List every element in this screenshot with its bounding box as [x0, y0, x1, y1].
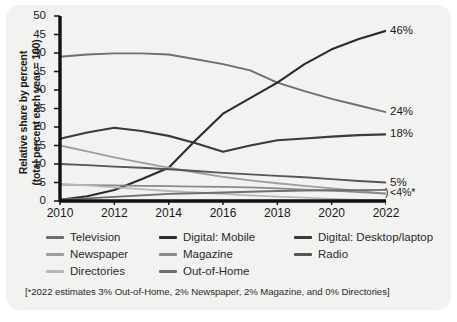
- legend-line-swatch-icon: [294, 236, 312, 239]
- legend-item-directories[interactable]: Directories: [46, 266, 159, 278]
- y-tick-label: 20: [33, 121, 46, 133]
- y-tick-label: 15: [33, 140, 46, 152]
- x-tick-label: 2012: [101, 207, 128, 219]
- legend-line-swatch-icon: [46, 270, 64, 273]
- grouping-brace-icon: ): [385, 187, 389, 198]
- legend-label: Radio: [318, 249, 348, 261]
- legend-line-swatch-icon: [46, 253, 64, 256]
- y-tick-label: 10: [33, 158, 46, 170]
- legend-item-newspaper[interactable]: Newspaper: [46, 249, 159, 261]
- legend-label: Out-of-Home: [183, 266, 249, 278]
- end-label-24: 24%: [390, 106, 413, 118]
- x-tick-label: 2010: [47, 207, 74, 219]
- x-tick-label: 2018: [264, 207, 291, 219]
- series-line-television: [60, 53, 386, 112]
- series-line-digital-desktop-laptop: [60, 128, 386, 152]
- y-tick-label: 45: [33, 29, 46, 41]
- plot-area: [48, 13, 386, 205]
- end-label-18: 18%: [390, 128, 413, 140]
- y-axis-tick-labels: 05101520253035404550: [14, 13, 46, 205]
- legend-row: DirectoriesOut-of-Home: [46, 263, 446, 280]
- legend-item-digital-desktop-laptop[interactable]: Digital: Desktop/laptop: [294, 232, 433, 244]
- end-label-46: 46%: [390, 25, 413, 37]
- legend-row: TelevisionDigital: MobileDigital: Deskto…: [46, 229, 446, 246]
- legend-label: Television: [70, 232, 121, 244]
- y-tick-label: 25: [33, 103, 46, 115]
- chart-card: Relative share by percent (total percent…: [6, 5, 451, 310]
- y-tick-label: 35: [33, 66, 46, 78]
- y-tick-label: 0: [40, 195, 46, 207]
- x-tick-label: 2020: [318, 207, 345, 219]
- legend-item-magazine[interactable]: Magazine: [159, 249, 294, 261]
- end-label-4: <4%*: [390, 187, 415, 198]
- legend-line-swatch-icon: [159, 270, 177, 273]
- chart-legend: TelevisionDigital: MobileDigital: Deskto…: [46, 229, 446, 280]
- x-tick-label: 2022: [373, 207, 400, 219]
- legend-label: Digital: Desktop/laptop: [318, 232, 433, 244]
- legend-item-out-of-home[interactable]: Out-of-Home: [159, 266, 294, 278]
- legend-line-swatch-icon: [159, 253, 177, 256]
- legend-item-radio[interactable]: Radio: [294, 249, 348, 261]
- legend-line-swatch-icon: [159, 236, 177, 239]
- series-end-labels: 46%24%18%5%<4%*): [388, 13, 451, 208]
- legend-line-swatch-icon: [46, 236, 64, 239]
- legend-label: Newspaper: [70, 249, 128, 261]
- chart-footnote: [*2022 estimates 3% Out-of-Home, 2% News…: [25, 286, 390, 297]
- series-line-digital-mobile: [60, 31, 386, 200]
- x-axis-tick-labels: 2010201220142016201820202022: [48, 205, 408, 225]
- legend-item-digital-mobile[interactable]: Digital: Mobile: [159, 232, 294, 244]
- legend-row: NewspaperMagazineRadio: [46, 246, 446, 263]
- legend-item-television[interactable]: Television: [46, 232, 159, 244]
- y-tick-label: 40: [33, 47, 46, 59]
- y-tick-label: 50: [33, 10, 46, 22]
- legend-label: Digital: Mobile: [183, 232, 255, 244]
- series-canvas: [48, 13, 386, 205]
- media-share-line-chart: Relative share by percent (total percent…: [6, 5, 451, 310]
- legend-label: Magazine: [183, 249, 233, 261]
- series-line-radio: [60, 164, 386, 183]
- legend-line-swatch-icon: [294, 253, 312, 256]
- y-tick-label: 30: [33, 84, 46, 96]
- y-tick-label: 5: [40, 177, 46, 189]
- legend-label: Directories: [70, 266, 125, 278]
- x-tick-label: 2016: [210, 207, 237, 219]
- x-tick-label: 2014: [155, 207, 182, 219]
